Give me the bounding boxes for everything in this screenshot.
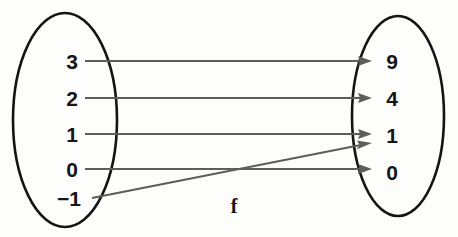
mapping-diagram: 3 2 1 0 −1 9 4 1 0 f: [0, 0, 458, 237]
domain-element-minus1: −1: [57, 188, 81, 209]
domain-element-3: 3: [66, 51, 78, 72]
codomain-element-1: 1: [386, 125, 398, 146]
mapping-arrow-0-to-0: [85, 164, 372, 174]
codomain-element-9: 9: [386, 51, 398, 72]
domain-element-1: 1: [66, 124, 78, 145]
mapping-arrows-group: [85, 56, 372, 198]
domain-element-0: 0: [66, 159, 78, 180]
codomain-ellipse: [352, 16, 444, 216]
mapping-arrow-3-to-9: [85, 56, 372, 66]
codomain-element-0: 0: [386, 162, 398, 183]
function-label: f: [231, 195, 238, 218]
codomain-ellipse-group: [352, 16, 444, 216]
mapping-arrow-1-to-1: [85, 129, 372, 139]
codomain-element-4: 4: [386, 88, 398, 109]
mapping-arrow-2-to-4: [85, 93, 372, 103]
domain-element-2: 2: [66, 88, 78, 109]
